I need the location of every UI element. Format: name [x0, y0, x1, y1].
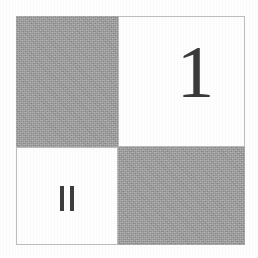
quadrant-bottom-right [118, 147, 245, 245]
quadrant-top-left [16, 16, 118, 147]
vertical-bar-right-icon [70, 186, 74, 211]
vertical-bar-left-icon [60, 186, 64, 211]
numeral-one-glyph: 1 [177, 35, 214, 109]
quadrant-bottom-left [16, 147, 118, 245]
quadrant-grid: 1 [16, 16, 245, 245]
quadrant-top-right: 1 [118, 16, 245, 147]
figure-canvas: 1 [0, 0, 258, 258]
numeral-one-layer: 1 [119, 17, 244, 146]
numeral-two-layer [17, 148, 117, 244]
numeral-two-bars-glyph [60, 186, 74, 211]
